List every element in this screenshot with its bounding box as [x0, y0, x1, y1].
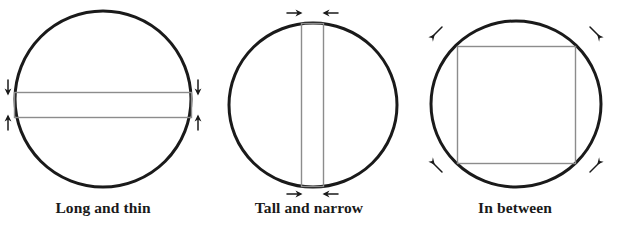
inscribed-rectangle-horizontal	[15, 93, 192, 118]
panel-in-between: In between	[412, 0, 618, 226]
inscribed-square	[458, 47, 576, 164]
arrow-top-left-down	[5, 80, 12, 96]
arrow-bottom-right-left	[323, 191, 339, 198]
circle-outline	[229, 23, 397, 187]
arrow-bottom-right-up	[195, 115, 202, 131]
long-and-thin-illustration	[0, 0, 206, 198]
arrow-top-right-left	[323, 10, 339, 17]
caption-tall-and-narrow: Tall and narrow	[206, 198, 412, 217]
arrow-bottom-left-up	[5, 115, 12, 131]
caption-in-between: In between	[412, 198, 618, 217]
caption-long-and-thin: Long and thin	[0, 198, 206, 217]
arrow-top-left-right	[287, 10, 303, 17]
arrow-corner-bottom-right-outward	[590, 157, 604, 172]
arrow-top-right-down	[195, 80, 202, 96]
inscribed-rectangles-diagram: Long and thin	[0, 0, 618, 226]
tall-and-narrow-illustration	[206, 0, 412, 198]
circle-outline	[15, 11, 191, 187]
panel-long-and-thin: Long and thin	[0, 0, 206, 226]
arrow-corner-top-left-outward	[428, 27, 442, 42]
in-between-illustration	[412, 0, 618, 198]
arrow-bottom-left-right	[287, 191, 303, 198]
arrow-corner-bottom-left-outward	[428, 157, 442, 172]
arrow-corner-top-right-outward	[590, 27, 604, 42]
inscribed-rectangle-vertical	[302, 24, 324, 187]
panel-tall-and-narrow: Tall and narrow	[206, 0, 412, 226]
